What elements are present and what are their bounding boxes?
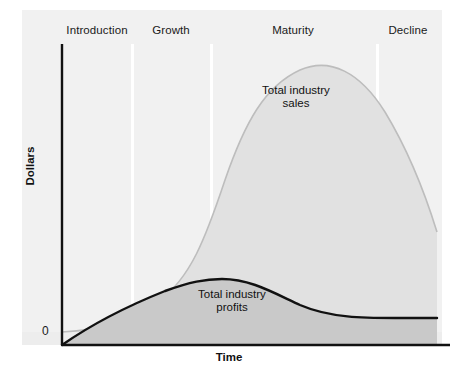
y-axis-title: Dollars bbox=[24, 126, 36, 206]
product-life-cycle-chart: Introduction Growth Maturity Decline Tot… bbox=[0, 0, 458, 369]
y-axis-tick-zero: 0 bbox=[42, 324, 49, 338]
series-annotation-total-industry-profits: Total industry profits bbox=[198, 288, 266, 314]
series-annotation-profits-line1: Total industry bbox=[198, 288, 266, 300]
series-annotation-total-industry-sales: Total industry sales bbox=[262, 84, 330, 110]
series-annotation-profits-line2: profits bbox=[216, 301, 247, 313]
series-annotation-sales-line1: Total industry bbox=[262, 84, 330, 96]
series-annotation-sales-line2: sales bbox=[283, 97, 310, 109]
x-axis-title: Time bbox=[0, 351, 458, 363]
